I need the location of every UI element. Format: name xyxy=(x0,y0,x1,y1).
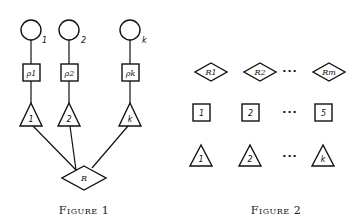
figure-1-caption: Figure 1 xyxy=(59,204,109,217)
square-label-5: 5 xyxy=(321,109,326,118)
figure-2: R1 R2 ··· Rm 1 2 ··· 5 1 2 ··· k Figure … xyxy=(190,63,345,217)
circle-label-k: k xyxy=(142,36,147,45)
circle-node-1 xyxy=(21,20,41,40)
square-label-rho2: ρ2 xyxy=(64,69,75,78)
square-label-1: 1 xyxy=(199,109,204,118)
square-label-rhok: ρk xyxy=(125,69,136,78)
triangle-label-k: k xyxy=(128,115,133,124)
diagram-canvas: 1 2 k ρ1 ρ2 ρk 1 2 k R Figure 1 R1 R2 ··… xyxy=(0,0,354,223)
triangle-label-2: 2 xyxy=(66,115,71,124)
triangle-label-k: k xyxy=(321,155,326,164)
circle-label-2: 2 xyxy=(81,36,86,45)
circle-label-1: 1 xyxy=(42,36,47,45)
diamond-label-R: R xyxy=(80,174,87,183)
connector xyxy=(70,126,76,170)
triangle-label-2: 2 xyxy=(247,155,252,164)
diamond-label-R1: R1 xyxy=(204,68,216,77)
triangle-label-1: 1 xyxy=(28,115,33,124)
diamond-label-R2: R2 xyxy=(253,68,265,77)
triangle-label-1: 1 xyxy=(198,155,203,164)
ellipsis: ··· xyxy=(282,65,298,78)
ellipsis: ··· xyxy=(282,150,298,163)
ellipsis: ··· xyxy=(282,106,298,119)
figure-1: 1 2 k ρ1 ρ2 ρk 1 2 k R Figure 1 xyxy=(20,20,147,217)
circle-node-2 xyxy=(59,20,79,40)
circle-node-k xyxy=(120,20,140,40)
square-label-rho1: ρ1 xyxy=(26,69,37,78)
figure-2-caption: Figure 2 xyxy=(251,204,301,217)
diamond-label-Rm: Rm xyxy=(321,68,336,77)
square-label-2: 2 xyxy=(248,109,253,118)
connector xyxy=(92,126,128,168)
